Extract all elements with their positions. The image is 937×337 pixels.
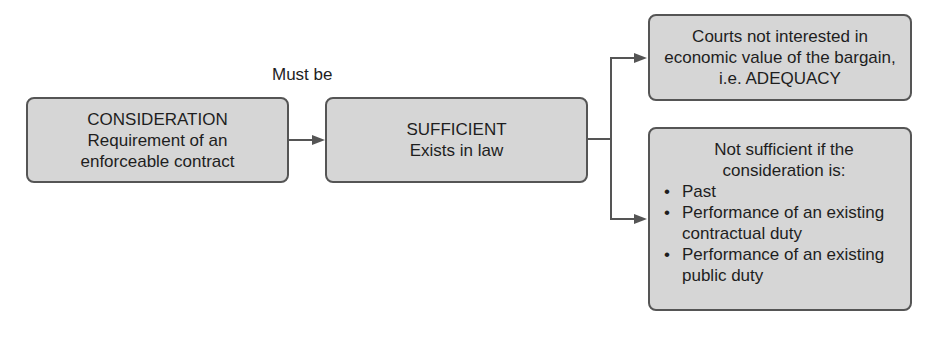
connector-line (610, 57, 636, 59)
sufficient-line2: Exists in law (410, 140, 504, 161)
adequacy-node: Courts not interested in economic value … (648, 14, 912, 101)
connector-line (289, 139, 314, 141)
bullet-text-cont: public duty (682, 265, 884, 286)
bullet-text-cont: contractual duty (682, 223, 884, 244)
consideration-line3: enforceable contract (80, 151, 234, 172)
not-sufficient-line2: consideration is: (658, 160, 910, 181)
not-sufficient-line1: Not sufficient if the (658, 139, 910, 160)
bullet-text: Performance of an existing (682, 202, 884, 223)
not-sufficient-node: Not sufficient if the consideration is: … (648, 127, 912, 311)
bullet-text: Past (682, 181, 884, 202)
adequacy-line2: economic value of the bargain, (664, 47, 896, 68)
arrow-head-icon (634, 214, 647, 224)
sufficient-title: SUFFICIENT (406, 119, 506, 140)
adequacy-line1: Courts not interested in (692, 26, 868, 47)
arrow-head-icon (634, 53, 647, 63)
list-item: Past (682, 181, 884, 202)
adequacy-line3: i.e. ADEQUACY (719, 68, 841, 89)
list-item: Performance of an existing contractual d… (682, 202, 884, 244)
consideration-node: CONSIDERATION Requirement of an enforcea… (26, 97, 289, 183)
edge-label-must-be: Must be (272, 65, 332, 85)
bullet-text: Performance of an existing (682, 244, 884, 265)
not-sufficient-list: Past Performance of an existing contract… (658, 181, 884, 286)
connector-line (610, 218, 636, 220)
sufficient-node: SUFFICIENT Exists in law (325, 97, 588, 183)
connector-line (610, 57, 612, 220)
connector-line (588, 138, 611, 140)
arrow-head-icon (312, 135, 325, 145)
consideration-line2: Requirement of an (88, 130, 228, 151)
consideration-title: CONSIDERATION (87, 109, 227, 130)
list-item: Performance of an existing public duty (682, 244, 884, 286)
